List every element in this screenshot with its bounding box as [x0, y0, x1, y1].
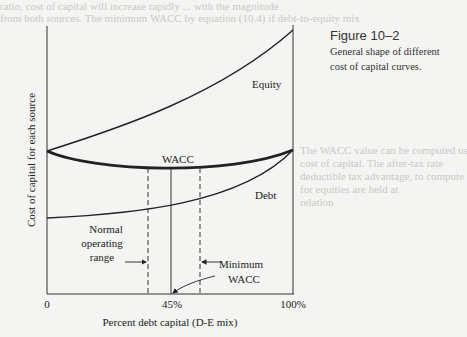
x-axis-title: Percent debt capital (D-E mix): [102, 316, 237, 329]
wacc-label: WACC: [162, 153, 194, 165]
minimum-wacc-label-1: Minimum: [219, 258, 263, 270]
x-tick-45: 45%: [162, 298, 182, 310]
equity-label: Equity: [252, 78, 282, 90]
minimum-wacc-arrow: [173, 276, 215, 293]
x-tick-100: 100%: [280, 298, 306, 310]
normal-operating-range-label-1: Normal: [89, 223, 123, 235]
cost-of-capital-chart: Equity WACC Debt Normal operating range …: [0, 0, 467, 337]
minimum-wacc-label-2: WACC: [228, 273, 260, 285]
debt-label: Debt: [255, 189, 276, 201]
x-tick-0: 0: [44, 298, 50, 310]
normal-operating-range-label-3: range: [90, 251, 115, 263]
equity-curve: [47, 30, 293, 151]
y-axis-title: Cost of capital for each source: [25, 93, 37, 227]
normal-operating-range-label-2: operating: [81, 237, 123, 249]
